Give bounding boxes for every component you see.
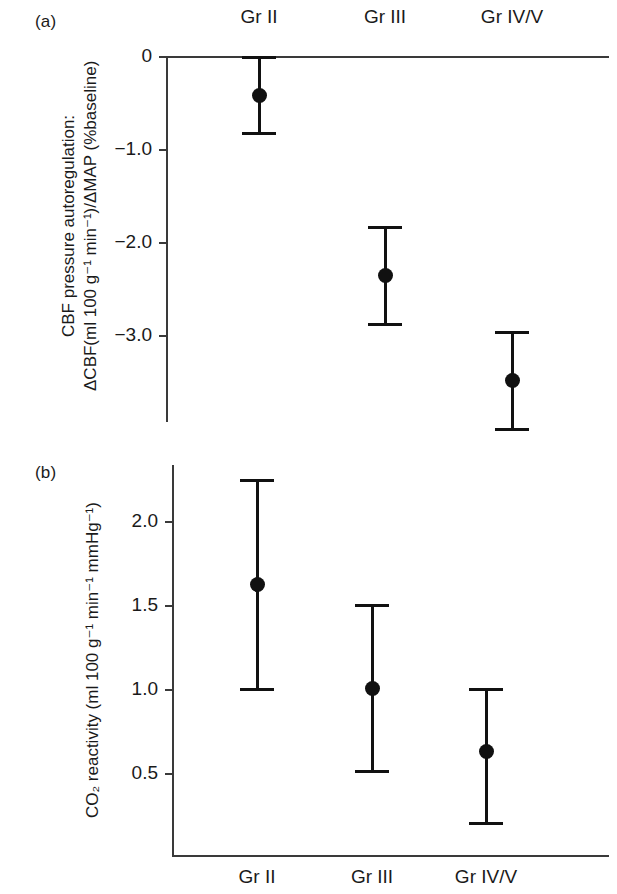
panel-a-zero-line — [166, 56, 609, 58]
panel-a-tick-label-3: −3.0 — [96, 324, 152, 346]
panel-b-tick-2 — [165, 689, 172, 691]
panel-a-tick-0 — [159, 56, 166, 58]
panel-a-tick-3 — [159, 335, 166, 337]
panel-b-y-axis-label: CO₂ reactivity (ml 100 g⁻¹ min⁻¹ mmHg⁻¹) — [82, 480, 104, 840]
data-point-marker — [479, 744, 494, 759]
panel-a-y-axis-label-line1: CBF pressure autoregulation: — [59, 114, 78, 336]
panel-a-letter: (a) — [35, 12, 56, 32]
panel-b-group-label-2: Gr III — [351, 866, 393, 888]
panel-b-errorbar-gr-iii — [354, 604, 390, 776]
errorbar-cap-lower — [495, 428, 529, 431]
panel-b-errorbar-gr-ii — [239, 479, 275, 693]
panel-a-tick-label-2: −2.0 — [96, 231, 152, 253]
data-point-marker — [378, 268, 393, 283]
panel-a-errorbar-gr-iv-v — [494, 331, 530, 433]
errorbar-cap-lower — [368, 323, 402, 326]
panel-a-tick-1 — [159, 149, 166, 151]
panel-b-tick-1 — [165, 605, 172, 607]
errorbar-cap-lower — [240, 688, 274, 691]
panel-a-group-label-2: Gr III — [364, 6, 406, 28]
data-point-marker — [505, 373, 520, 388]
panel-a: (a) CBF pressure autoregulation:ΔCBF(ml … — [0, 0, 617, 450]
panel-b-errorbar-gr-iv-v — [468, 688, 504, 828]
panel-b-group-label-3: Gr IV/V — [455, 866, 517, 888]
panel-a-tick-label-0: 0 — [96, 45, 152, 67]
panel-a-errorbar-gr-iii — [367, 226, 403, 328]
data-point-marker — [252, 88, 267, 103]
panel-a-tick-label-1: −1.0 — [96, 138, 152, 160]
panel-a-y-axis-label: CBF pressure autoregulation:ΔCBF(ml 100 … — [58, 38, 102, 413]
errorbar-cap-lower — [469, 822, 503, 825]
panel-b-tick-label-2: 1.0 — [104, 678, 158, 700]
panel-b-y-axis-line — [172, 465, 174, 857]
errorbar-cap-lower — [242, 132, 276, 135]
panel-a-errorbar-gr-ii — [241, 56, 277, 136]
panel-b-tick-label-0: 2.0 — [104, 510, 158, 532]
panel-b-tick-0 — [165, 521, 172, 523]
panel-b-tick-label-3: 0.5 — [104, 762, 158, 784]
data-point-marker — [250, 577, 265, 592]
panel-b-group-label-1: Gr II — [239, 866, 276, 888]
panel-a-group-label-1: Gr II — [241, 6, 278, 28]
panel-a-y-axis-line — [166, 56, 168, 422]
panel-a-tick-2 — [159, 242, 166, 244]
panel-b-tick-3 — [165, 773, 172, 775]
errorbar-cap-lower — [355, 770, 389, 773]
data-point-marker — [365, 681, 380, 696]
figure: (a) CBF pressure autoregulation:ΔCBF(ml … — [0, 0, 617, 894]
panel-a-group-label-3: Gr IV/V — [481, 6, 543, 28]
panel-b-tick-label-1: 1.5 — [104, 594, 158, 616]
panel-b-letter: (b) — [35, 463, 56, 483]
panel-b-x-axis-line — [172, 855, 609, 857]
